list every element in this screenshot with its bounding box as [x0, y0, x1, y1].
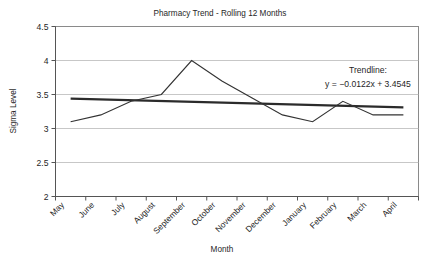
y-tick-label: 4: [44, 56, 49, 66]
y-tick-label: 2.5: [37, 158, 49, 168]
chart-container: Pharmacy Trend - Rolling 12 Months 22.53…: [0, 0, 441, 268]
y-tick-label: 4.5: [37, 22, 49, 32]
trendline-annotation-equation: y = −0.0122x + 3.4545: [325, 79, 411, 89]
y-tick-label: 3: [44, 124, 49, 134]
y-axis-title: Sigma Level: [9, 88, 18, 133]
y-tick-label: 3.5: [37, 90, 49, 100]
x-axis-title: Month: [211, 245, 234, 254]
y-tick-label: 2: [44, 192, 49, 202]
plot-area-frame: [56, 27, 419, 197]
trendline-annotation-label: Trendline:: [349, 65, 387, 75]
chart-title: Pharmacy Trend - Rolling 12 Months: [154, 9, 287, 18]
